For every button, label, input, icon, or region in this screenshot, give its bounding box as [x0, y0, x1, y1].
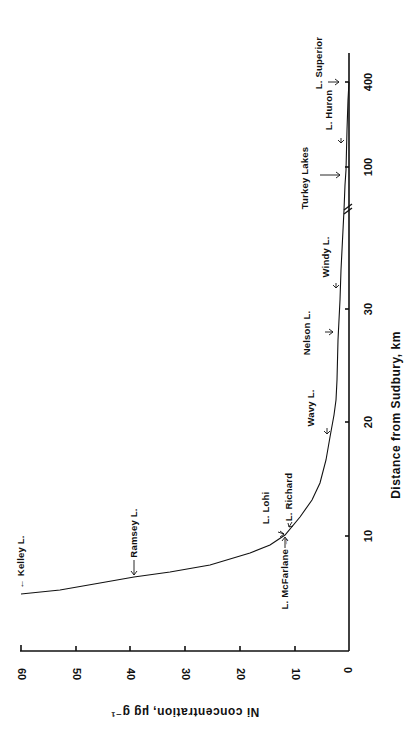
y-tick-30: 30: [180, 668, 191, 680]
x-tick-20: 20: [363, 416, 374, 428]
concentration-axis: [20, 645, 349, 651]
x-tick-400: 400: [363, 73, 374, 91]
label-turkey: Turkey Lakes: [300, 147, 310, 209]
y-tick-50: 50: [71, 668, 82, 680]
label-richard: L. Richard: [284, 473, 294, 521]
label-kelley: ← Kelley L.: [16, 535, 26, 588]
x-tick-100: 100: [363, 158, 374, 176]
label-windy: Windy L.: [321, 236, 331, 277]
y-axis-title: Ni concentration, µg g⁻¹: [111, 706, 260, 718]
y-tick-60: 60: [16, 668, 27, 680]
label-mcfarlane: L. McFarlane →: [280, 536, 290, 609]
x-tick-30: 30: [363, 303, 374, 315]
label-nelson: Nelson L.: [302, 311, 312, 356]
y-tick-0: 0: [342, 667, 353, 673]
y-tick-40: 40: [125, 668, 136, 680]
y-tick-20: 20: [235, 668, 246, 680]
label-lohi: L. Lohi: [261, 492, 271, 525]
label-huron: L. Huron: [324, 90, 334, 131]
label-wavy: Wavy L.: [306, 390, 316, 427]
y-tick-10: 10: [290, 668, 301, 680]
x-tick-10: 10: [363, 530, 374, 542]
chart-canvas: [0, 0, 408, 745]
x-axis-title: Distance from Sudbury, km: [390, 331, 402, 499]
axis-break-icon: [344, 204, 352, 214]
label-superior: L. Superior: [314, 37, 324, 89]
label-ramsey: Ramsey L.: [129, 508, 139, 557]
